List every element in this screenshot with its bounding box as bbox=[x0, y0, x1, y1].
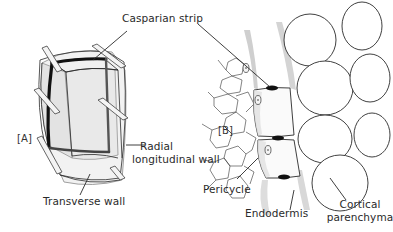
pericycle-label: Pericycle bbox=[203, 183, 251, 195]
cortical-parenchyma-label-line1: Cortical bbox=[330, 198, 390, 210]
cortical-parenchyma-label-line2: parenchyma bbox=[322, 211, 393, 223]
casparian-strip-label: Casparian strip bbox=[122, 12, 203, 24]
radial-longitudinal-wall-label-line1: Radial bbox=[140, 140, 173, 152]
panel-a-label: [A] bbox=[17, 133, 32, 145]
transverse-wall-label: Transverse wall bbox=[43, 195, 125, 207]
endodermis-label: Endodermis bbox=[245, 207, 308, 219]
panel-b-label: [B] bbox=[218, 125, 233, 137]
radial-longitudinal-wall-label-line2: longitudinal wall bbox=[132, 153, 220, 165]
